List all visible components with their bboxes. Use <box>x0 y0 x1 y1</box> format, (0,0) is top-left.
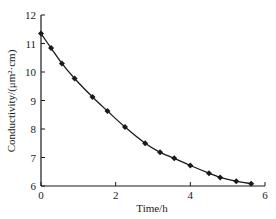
x-tick-label: 4 <box>188 189 194 201</box>
y-tick-label: 9 <box>31 95 37 107</box>
y-tick-label: 10 <box>25 66 37 78</box>
y-tick-label: 11 <box>25 38 36 50</box>
x-axis-label: Time/h <box>136 202 168 214</box>
data-point-marker <box>206 170 212 176</box>
x-tick-label: 6 <box>262 189 268 201</box>
y-tick-label: 7 <box>31 152 37 164</box>
conductivity-chart: 02466789101112 Time/h Conductivity/(μm²·… <box>0 0 276 219</box>
y-tick-label: 6 <box>31 180 37 192</box>
data-point-marker <box>171 155 177 161</box>
x-tick-label: 2 <box>113 189 119 201</box>
y-axis-label: Conductivity/(μm²·cm) <box>5 49 18 152</box>
series-line <box>41 34 251 184</box>
data-point-marker <box>233 178 239 184</box>
y-tick-label: 12 <box>25 9 36 21</box>
x-tick-label: 0 <box>38 189 44 201</box>
data-point-marker <box>217 174 223 180</box>
data-point-marker <box>157 149 163 155</box>
data-series <box>38 31 254 187</box>
y-tick-label: 8 <box>31 123 37 135</box>
data-point-marker <box>187 162 193 168</box>
ticks: 02466789101112 <box>25 9 268 201</box>
axes <box>41 15 265 186</box>
